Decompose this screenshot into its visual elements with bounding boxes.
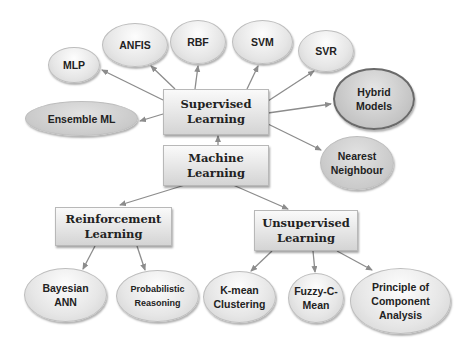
nearest-neighbour-node: Nearest Neighbour (320, 136, 394, 190)
ensemble-ml-node: Ensemble ML (25, 101, 138, 136)
supervised-learning-node: Supervised Learning (163, 89, 269, 135)
principal-component-analysis-node: Principle of Component Analysis (350, 268, 451, 334)
hybrid-models-label: Hybrid Models (356, 85, 392, 113)
bayesian-ann-node: Bayesian ANN (24, 268, 107, 322)
fuzzy-c-mean-label: Fuzzy-C- Mean (294, 284, 338, 312)
machine-learning-node: Machine Learning (163, 145, 269, 186)
k-mean-clustering-label: K-mean Clustering (214, 283, 266, 311)
k-mean-clustering-node: K-mean Clustering (203, 271, 276, 323)
reinforcement-learning-node: Reinforcement Learning (55, 207, 172, 246)
anfis-label: ANFIS (119, 38, 151, 52)
svm-label: SVM (251, 35, 274, 49)
rbf-node: RBF (170, 20, 226, 64)
svr-label: SVR (315, 44, 337, 58)
nearest-neighbour-label: Nearest Neighbour (331, 149, 384, 177)
unsupervised-learning-label: Unsupervised Learning (262, 216, 350, 246)
probabilistic-reasoning-node: Probabilistic Reasoning (116, 270, 199, 322)
fuzzy-c-mean-node: Fuzzy-C- Mean (288, 273, 344, 323)
anfis-node: ANFIS (102, 23, 168, 67)
machine-learning-label: Machine Learning (187, 151, 245, 181)
svr-node: SVR (298, 30, 354, 72)
supervised-learning-label: Supervised Learning (181, 97, 252, 127)
mlp-node: MLP (48, 47, 100, 83)
rbf-label: RBF (187, 35, 209, 49)
principal-component-analysis-label: Principle of Component Analysis (371, 280, 429, 322)
unsupervised-learning-node: Unsupervised Learning (254, 210, 358, 251)
probabilistic-reasoning-label: Probabilistic Reasoning (130, 282, 184, 310)
mlp-label: MLP (63, 58, 85, 72)
bayesian-ann-label: Bayesian ANN (42, 281, 88, 309)
svm-node: SVM (232, 20, 293, 64)
ensemble-ml-label: Ensemble ML (48, 112, 116, 126)
reinforcement-learning-label: Reinforcement Learning (66, 212, 162, 242)
hybrid-models-node: Hybrid Models (333, 68, 415, 130)
